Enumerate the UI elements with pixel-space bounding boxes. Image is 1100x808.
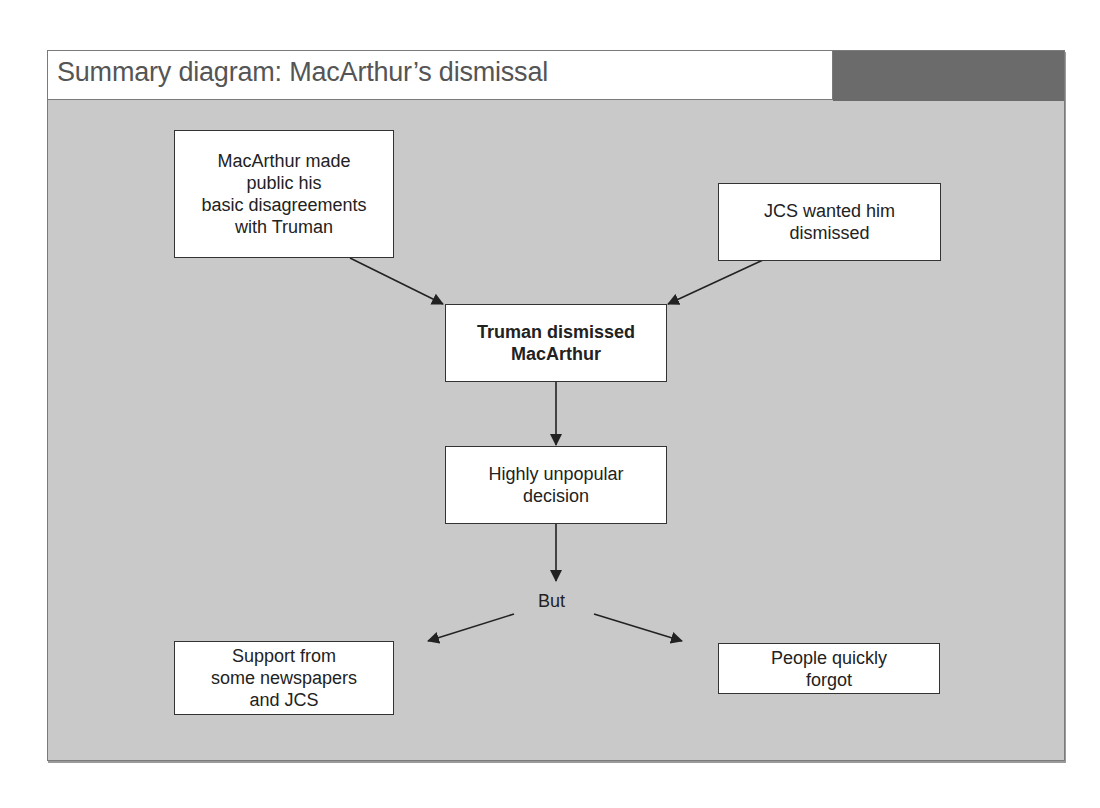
node-line: basic disagreements	[201, 194, 366, 216]
node-macarthur-public: MacArthur made public his basic disagree…	[174, 130, 394, 258]
node-line: and JCS	[211, 689, 357, 711]
arrow-macarthur-to-truman	[350, 258, 443, 304]
node-line: some newspapers	[211, 667, 357, 689]
node-line: Truman dismissed	[477, 321, 635, 343]
node-line: People quickly	[771, 647, 887, 669]
arrow-but-to-support	[428, 614, 514, 641]
node-line: with Truman	[201, 216, 366, 238]
arrow-but-to-forgot	[594, 614, 682, 641]
node-line: MacArthur	[477, 343, 635, 365]
node-truman-dismissed: Truman dismissed MacArthur	[445, 304, 667, 382]
node-line: Support from	[211, 645, 357, 667]
node-line: MacArthur made	[201, 150, 366, 172]
but-label: But	[538, 591, 565, 612]
node-line: decision	[488, 485, 623, 507]
node-people-forgot: People quickly forgot	[718, 643, 940, 694]
node-jcs-wanted: JCS wanted him dismissed	[718, 183, 941, 261]
node-line: dismissed	[764, 222, 895, 244]
node-line: Highly unpopular	[488, 463, 623, 485]
node-line: forgot	[771, 669, 887, 691]
node-support: Support from some newspapers and JCS	[174, 641, 394, 715]
node-line: public his	[201, 172, 366, 194]
node-line: JCS wanted him	[764, 200, 895, 222]
node-unpopular-decision: Highly unpopular decision	[445, 446, 667, 524]
arrow-jcs-to-truman	[668, 260, 763, 304]
